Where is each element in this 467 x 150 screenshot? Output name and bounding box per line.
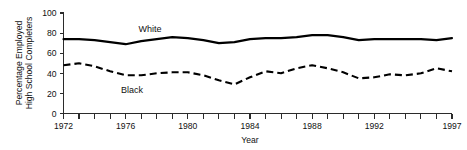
x-axis-ticks [64, 114, 453, 119]
y-tick-label: 60 [47, 48, 57, 58]
x-axis: 1972197619801984198819921997 [54, 114, 462, 131]
y-tick-label: 80 [47, 28, 57, 38]
x-tick-label: 1984 [240, 121, 259, 131]
y-tick-label: 100 [42, 8, 57, 18]
x-tick-label: 1988 [303, 121, 322, 131]
series-annotation-black: Black [121, 85, 144, 95]
y-axis-title-line1: Percentage Employed [14, 21, 24, 106]
x-tick-label: 1997 [442, 121, 461, 131]
y-tick-label: 40 [47, 69, 57, 79]
y-axis: 020406080100 [42, 8, 63, 119]
y-axis-title-line2: High School Completers [24, 17, 34, 110]
y-axis-ticks [60, 13, 64, 114]
x-tick-label: 1976 [116, 121, 135, 131]
data-series-group [64, 35, 453, 84]
chart-figure: 020406080100 197219761980198419881992199… [0, 0, 467, 150]
x-tick-label: 1972 [54, 121, 73, 131]
line-chart-canvas: 020406080100 197219761980198419881992199… [0, 0, 467, 150]
y-tick-label: 0 [52, 109, 57, 119]
x-axis-tick-labels: 1972197619801984198819921997 [54, 121, 462, 131]
y-axis-title-group: Percentage Employed High School Complete… [14, 17, 34, 110]
x-axis-title: Year [241, 135, 259, 145]
y-tick-label: 20 [47, 89, 57, 99]
series-line-black [64, 63, 453, 84]
y-axis-tick-labels: 020406080100 [42, 8, 57, 119]
x-tick-label: 1980 [178, 121, 197, 131]
series-annotation-white: White [138, 24, 161, 34]
series-line-white [64, 35, 453, 44]
x-tick-label: 1992 [365, 121, 384, 131]
